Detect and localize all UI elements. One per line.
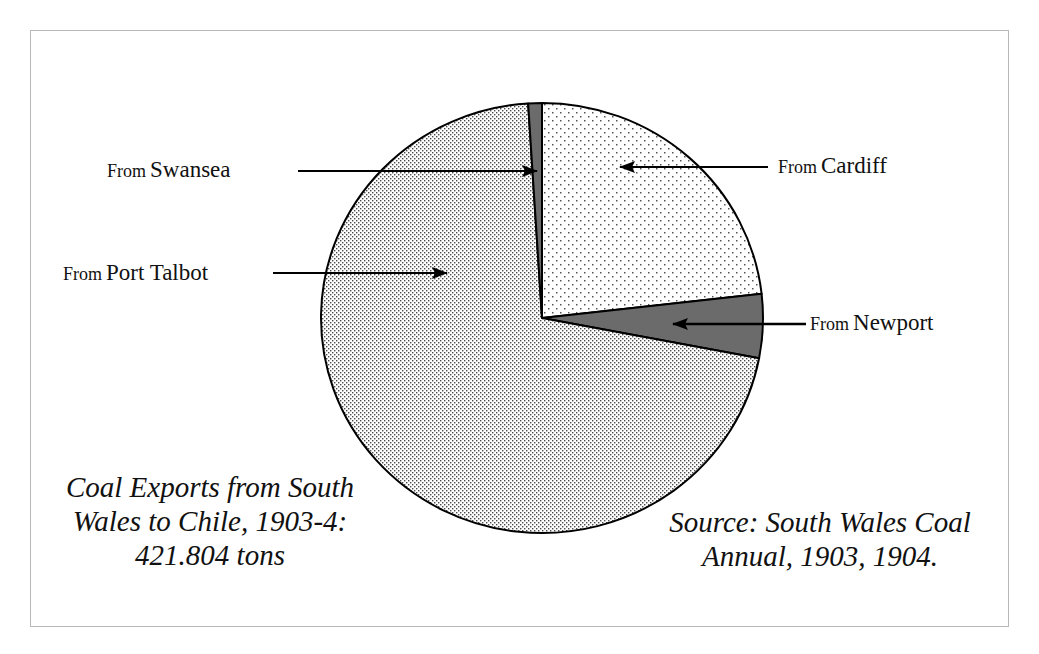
chart-title: Coal Exports from South Wales to Chile, … (35, 470, 385, 572)
label-place-newport: Newport (853, 310, 933, 335)
label-place-port-talbot: Port Talbot (106, 260, 208, 285)
source-line-2: Annual, 1903, 1904. (640, 539, 1000, 573)
title-line-3: 421.804 tons (35, 538, 385, 572)
label-swansea: From Swansea (107, 158, 231, 181)
label-from: From (63, 264, 102, 284)
title-line-2: Wales to Chile, 1903-4: (35, 504, 385, 538)
label-place-cardiff: Cardiff (821, 153, 887, 178)
label-cardiff: From Cardiff (778, 154, 887, 177)
pie-slice-cardiff (542, 103, 762, 318)
label-from: From (107, 161, 146, 181)
title-line-1: Coal Exports from South (35, 470, 385, 504)
label-port-talbot: From Port Talbot (63, 261, 208, 284)
label-newport: From Newport (810, 311, 934, 334)
source-line-1: Source: South Wales Coal (640, 505, 1000, 539)
label-from: From (810, 314, 849, 334)
chart-source: Source: South Wales Coal Annual, 1903, 1… (640, 505, 1000, 573)
label-from: From (778, 157, 817, 177)
label-place-swansea: Swansea (150, 157, 230, 182)
